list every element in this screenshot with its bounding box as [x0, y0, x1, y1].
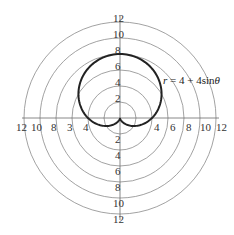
equation-label: r = 4 + 4sinθ: [163, 74, 221, 86]
tick-up-8: 8: [115, 44, 121, 56]
tick-right-10: 10: [200, 121, 212, 133]
tick-left-12: 12: [16, 121, 27, 133]
tick-labels-right: 4 6 8 10 12: [154, 121, 227, 133]
tick-left-8: 8: [51, 121, 57, 133]
equation-body: = 4 + 4sin: [167, 74, 215, 86]
tick-left-6: 3: [67, 121, 73, 133]
tick-up-12: 12: [113, 12, 124, 24]
tick-up-6: 6: [115, 60, 121, 72]
tick-down-12: 12: [113, 213, 124, 225]
equation-theta: θ: [215, 74, 221, 86]
tick-right-12: 12: [216, 121, 227, 133]
tick-down-10: 10: [113, 197, 125, 209]
tick-down-8: 8: [115, 181, 121, 193]
tick-labels-down: 2 4 6 8 10 12: [113, 133, 125, 225]
tick-labels-left: 12 10 8 3 4: [16, 121, 89, 133]
tick-down-4: 4: [115, 149, 121, 161]
tick-left-4: 4: [83, 121, 89, 133]
tick-right-4: 4: [154, 121, 160, 133]
tick-up-10: 10: [113, 28, 125, 40]
tick-down-2: 2: [115, 133, 121, 145]
tick-left-10: 10: [31, 121, 43, 133]
tick-up-4: 4: [115, 76, 121, 88]
tick-down-6: 6: [115, 165, 121, 177]
tick-right-6: 6: [170, 121, 176, 133]
tick-up-2: 2: [115, 92, 121, 104]
tick-right-8: 8: [186, 121, 192, 133]
tick-labels-up: 12 10 8 6 4 2: [113, 12, 125, 104]
polar-chart: 12 10 8 6 4 2 2 4 6 8 10 12 12 10 8 3 4 …: [0, 0, 234, 235]
